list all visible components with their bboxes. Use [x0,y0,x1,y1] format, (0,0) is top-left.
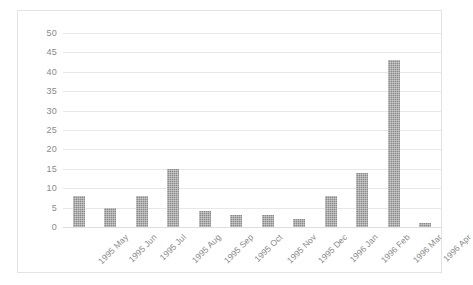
x-tick-label: 1995 Jul [157,232,187,262]
x-tick-label: 1996 Mar [411,232,444,265]
x-tick-label: 1995 Nov [285,232,318,265]
x-tick-label: 1995 Dec [316,232,349,265]
x-tick-label: 1995 Oct [253,232,285,264]
bar-slot [378,33,410,227]
y-tick-label: 5 [52,203,57,213]
y-tick-label: 10 [47,183,57,193]
x-tick-label: 1996 Feb [379,232,412,265]
bar-slot [347,33,379,227]
bar-slot [252,33,284,227]
y-tick-label: 45 [47,47,57,57]
bar-slot [189,33,221,227]
bar-slot [284,33,316,227]
bar-slot [126,33,158,227]
bar-slot [95,33,127,227]
y-tick-label: 20 [47,144,57,154]
y-tick-label: 50 [47,28,57,38]
bar[interactable] [388,60,400,227]
bar[interactable] [167,169,179,227]
x-tick-label: 1995 May [96,232,130,266]
bar[interactable] [73,196,85,227]
x-tick-label: 1996 Jan [347,232,379,264]
gridline-0 [63,227,441,228]
y-tick-label: 35 [47,86,57,96]
bar[interactable] [230,215,242,227]
plot-area: 05101520253035404550 1995 May1995 Jun199… [63,33,441,227]
bar-series [63,33,441,227]
y-tick-label: 0 [52,222,57,232]
bar-slot [221,33,253,227]
bar-slot [63,33,95,227]
bar-slot [158,33,190,227]
x-tick-label: 1995 Sep [222,232,255,265]
bar[interactable] [419,223,431,227]
x-tick-label: 1995 Jun [127,232,159,264]
bar[interactable] [293,219,305,227]
chart-frame: 05101520253035404550 1995 May1995 Jun199… [17,10,442,273]
x-tick-label: 1995 Aug [190,232,223,265]
bar[interactable] [136,196,148,227]
bar[interactable] [262,215,274,227]
y-tick-label: 30 [47,106,57,116]
bar[interactable] [104,208,116,227]
bar[interactable] [199,211,211,227]
y-tick-label: 15 [47,164,57,174]
y-tick-label: 40 [47,67,57,77]
y-tick-label: 25 [47,125,57,135]
bar-slot [410,33,442,227]
x-tick-label: 1996 Apr [441,232,473,264]
bar[interactable] [356,173,368,227]
bar-slot [315,33,347,227]
bar[interactable] [325,196,337,227]
